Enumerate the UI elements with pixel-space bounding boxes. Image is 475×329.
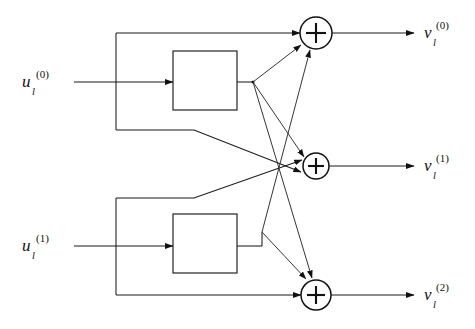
input-label-u1-subscript: l — [32, 250, 35, 261]
diagram-canvas: u l (0) u l (1) v l (0) v l (1) v l (2) … — [0, 0, 475, 329]
output-label-v0-subscript: l — [433, 37, 436, 48]
input-label-u0: u l (0) — [22, 68, 49, 97]
adder-2 — [301, 280, 331, 310]
output-label-v2: v l (2) — [424, 281, 449, 310]
rail-upper-bottom — [116, 130, 301, 172]
input-label-u1-base: u — [22, 236, 31, 255]
edge-upper-to-adder1 — [253, 82, 304, 157]
block-lower — [173, 214, 237, 273]
edge-lower-to-adder0 — [262, 50, 310, 232]
block-upper — [173, 51, 237, 110]
output-label-v1-base: v — [424, 156, 432, 175]
edge-upper-to-adder0 — [253, 45, 301, 82]
output-label-v0-base: v — [424, 23, 432, 42]
output-label-v1-superscript: (1) — [436, 152, 449, 165]
input-label-u0-base: u — [22, 72, 31, 91]
input-label-u0-subscript: l — [32, 86, 35, 97]
block-upper-output — [237, 81, 255, 84]
adder-1 — [303, 153, 329, 179]
adder-0 — [300, 17, 332, 49]
input-label-u0-superscript: (0) — [36, 68, 49, 81]
input-label-u1-superscript: (1) — [36, 232, 49, 245]
output-label-v2-base: v — [424, 285, 432, 304]
rail-lower-top — [116, 160, 302, 295]
output-label-v0-superscript: (0) — [436, 19, 449, 32]
input-label-u1: u l (1) — [22, 232, 49, 261]
encoder-diagram: u l (0) u l (1) v l (0) v l (1) v l (2) … — [0, 0, 475, 329]
output-label-v2-subscript: l — [433, 299, 436, 310]
edge-upper-to-adder2 — [253, 82, 312, 278]
output-label-v2-superscript: (2) — [436, 281, 449, 294]
output-label-v1-subscript: l — [433, 170, 436, 181]
output-label-v1: v l (1) — [424, 152, 449, 181]
output-label-v0: v l (0) — [424, 19, 449, 48]
block-lower-output — [237, 232, 262, 246]
edge-lower-to-adder2 — [262, 232, 306, 279]
